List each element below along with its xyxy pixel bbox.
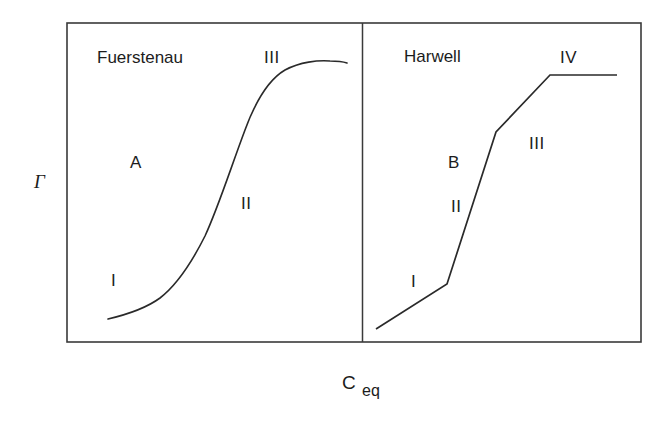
plot-frame xyxy=(67,23,641,342)
fuerstenau-region-iii: III xyxy=(264,49,280,66)
fuerstenau-curve xyxy=(108,61,347,319)
fuerstenau-region-i: I xyxy=(111,272,116,289)
harwell-region-ii: II xyxy=(451,198,461,215)
y-axis-label: Γ xyxy=(34,172,45,191)
panel-letter-a: A xyxy=(130,154,141,171)
x-axis-label-subscript: eq xyxy=(362,383,380,399)
harwell-region-i: I xyxy=(411,273,416,290)
x-axis-label: C xyxy=(342,373,356,392)
harwell-region-iv: IV xyxy=(560,49,577,66)
panel-title-fuerstenau: Fuerstenau xyxy=(97,49,183,66)
fuerstenau-region-ii: II xyxy=(241,195,251,212)
harwell-region-iii: III xyxy=(529,135,545,152)
panel-title-harwell: Harwell xyxy=(404,48,461,65)
panel-letter-b: B xyxy=(448,154,459,171)
adsorption-isotherm-figure: Γ C eq Fuerstenau A I II III Harwell B I… xyxy=(0,0,671,422)
